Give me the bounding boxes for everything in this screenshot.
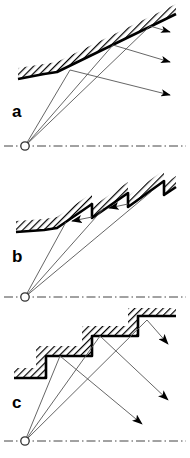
arrow-c-2: [100, 336, 168, 400]
ray-reflection-figure: a: [0, 0, 190, 458]
source-point-b: [21, 293, 29, 301]
panel-a: a: [0, 0, 190, 160]
panel-b-drawing: b: [0, 160, 190, 308]
panel-b: b: [0, 160, 190, 308]
panel-c-drawing: c: [0, 308, 190, 458]
surface-band-b: [16, 170, 176, 232]
panel-a-drawing: a: [0, 0, 190, 160]
panel-label-a: a: [12, 102, 22, 121]
incident-rays-a: [25, 26, 150, 146]
arrow-a-1: [150, 26, 170, 32]
arrow-c-1: [147, 320, 168, 344]
panel-label-b: b: [12, 247, 22, 266]
arrow-a-3: [70, 70, 170, 95]
panel-c: c: [0, 308, 190, 458]
arrow-b-1: [72, 217, 92, 221]
surface-band-a: [18, 4, 176, 79]
source-point-a: [21, 142, 29, 150]
panel-label-c: c: [12, 393, 21, 412]
source-point-c: [21, 437, 29, 445]
